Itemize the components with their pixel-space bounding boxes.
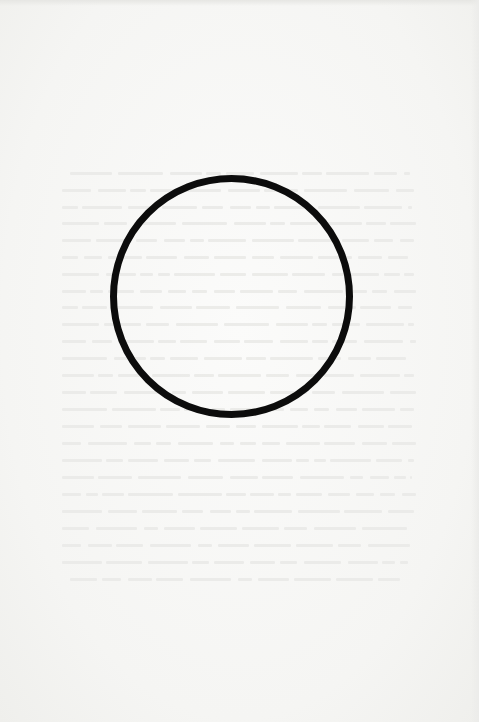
scanned-page <box>0 0 479 722</box>
bleed-through-word <box>394 476 406 479</box>
bleed-through-word <box>106 561 142 564</box>
bleed-through-word <box>290 408 308 411</box>
bleed-through-word <box>84 256 102 259</box>
bleed-through-word <box>238 578 252 581</box>
bleed-through-word <box>262 476 293 479</box>
bleed-through-word <box>302 425 320 428</box>
drawn-circle <box>110 175 353 418</box>
bleed-through-word <box>156 442 171 445</box>
bleed-through-word <box>106 459 123 462</box>
bleed-through-word <box>102 493 124 496</box>
bleed-through-word <box>150 544 191 547</box>
bleed-through-word <box>296 493 322 496</box>
bleed-through-word <box>364 340 403 343</box>
bleed-through-word <box>86 493 98 496</box>
bleed-through-word <box>366 222 386 225</box>
bleed-through-word <box>280 561 297 564</box>
bleed-through-word <box>404 273 414 276</box>
bleed-through-word <box>62 340 86 343</box>
bleed-through-word <box>400 561 408 564</box>
bleed-through-word <box>62 222 99 225</box>
bleed-through-word <box>408 206 412 209</box>
bleed-through-word <box>160 408 180 411</box>
bleed-through-word <box>62 442 81 445</box>
bleed-through-word <box>62 239 91 242</box>
bleed-through-word <box>354 189 389 192</box>
bleed-through-word <box>392 442 416 445</box>
bleed-through-word <box>318 206 360 209</box>
bleed-through-word <box>408 459 414 462</box>
bleed-through-word <box>62 306 78 309</box>
bleed-through-word <box>134 442 151 445</box>
bleed-through-word <box>382 561 395 564</box>
bleed-through-word <box>378 578 400 581</box>
bleed-through-word <box>324 442 355 445</box>
bleed-through-word <box>350 476 363 479</box>
bleed-through-word <box>404 374 414 377</box>
bleed-through-word <box>70 578 97 581</box>
bleed-through-word <box>362 408 395 411</box>
bleed-through-word <box>260 172 298 175</box>
bleed-through-word <box>214 561 244 564</box>
bleed-through-word <box>314 459 326 462</box>
bleed-through-word <box>62 493 81 496</box>
bleed-through-word <box>164 527 195 530</box>
bleed-through-word <box>156 578 183 581</box>
bleed-through-word <box>370 476 389 479</box>
bleed-through-word <box>62 374 94 377</box>
bleed-through-word <box>62 459 102 462</box>
bleed-through-word <box>102 578 121 581</box>
bleed-through-word <box>164 459 189 462</box>
bleed-through-word <box>182 510 203 513</box>
bleed-through-word <box>116 544 143 547</box>
bleed-through-word <box>350 273 379 276</box>
bleed-through-word <box>342 391 384 394</box>
bleed-through-word <box>198 544 212 547</box>
bleed-through-word <box>104 222 127 225</box>
bleed-through-word <box>62 425 94 428</box>
bleed-through-word <box>360 374 400 377</box>
bleed-through-word <box>390 222 416 225</box>
bleed-through-word <box>298 510 340 513</box>
bleed-through-word <box>362 527 407 530</box>
bleed-through-word <box>128 425 161 428</box>
bleed-through-word <box>112 408 156 411</box>
bleed-through-word <box>262 442 280 445</box>
bleed-through-word <box>324 374 354 377</box>
bleed-through-word <box>220 442 234 445</box>
bleed-through-word <box>206 425 230 428</box>
bleed-through-word <box>376 357 406 360</box>
bleed-through-word <box>368 544 410 547</box>
bleed-through-word <box>258 578 289 581</box>
bleed-through-word <box>374 172 397 175</box>
bleed-through-word <box>250 561 275 564</box>
bleed-through-word <box>192 561 209 564</box>
bleed-through-word <box>108 510 137 513</box>
bleed-through-word <box>62 544 81 547</box>
bleed-through-word <box>62 290 86 293</box>
bleed-through-word <box>62 510 102 513</box>
bleed-through-word <box>98 189 126 192</box>
bleed-through-word <box>358 256 382 259</box>
bleed-through-word <box>314 527 356 530</box>
bleed-through-word <box>226 493 246 496</box>
bleed-through-word <box>62 527 89 530</box>
bleed-through-word <box>90 290 103 293</box>
bleed-through-word <box>138 476 181 479</box>
bleed-through-word <box>408 323 414 326</box>
bleed-through-word <box>338 544 361 547</box>
bleed-through-word <box>374 239 393 242</box>
bleed-through-word <box>376 459 402 462</box>
bleed-through-word <box>410 340 416 343</box>
bleed-through-word <box>296 544 333 547</box>
bleed-through-word <box>88 544 112 547</box>
bleed-through-word <box>82 206 122 209</box>
bleed-through-word <box>336 408 357 411</box>
bleed-through-word <box>62 561 102 564</box>
bleed-through-word <box>358 425 384 428</box>
bleed-through-word <box>62 357 107 360</box>
bleed-through-word <box>388 425 412 428</box>
bleed-through-word <box>394 290 416 293</box>
bleed-through-word <box>388 510 414 513</box>
bleed-through-word <box>350 290 367 293</box>
